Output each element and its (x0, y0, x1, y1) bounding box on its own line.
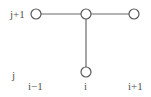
col-label-i-plus-1: i+1 (128, 80, 143, 92)
row-label-j: j (11, 69, 15, 81)
row-label-j-plus-1: j+1 (9, 8, 25, 20)
node-i-plus-1-j-plus-1 (129, 9, 139, 19)
node-i-j-plus-1 (81, 9, 91, 19)
node-i-minus-1-j-plus-1 (31, 9, 41, 19)
col-label-i: i (84, 80, 87, 92)
col-label-i-minus-1: i−1 (28, 80, 43, 92)
node-i-j (81, 67, 91, 77)
stencil-diagram: j+1 j i−1 i i+1 (0, 0, 151, 97)
